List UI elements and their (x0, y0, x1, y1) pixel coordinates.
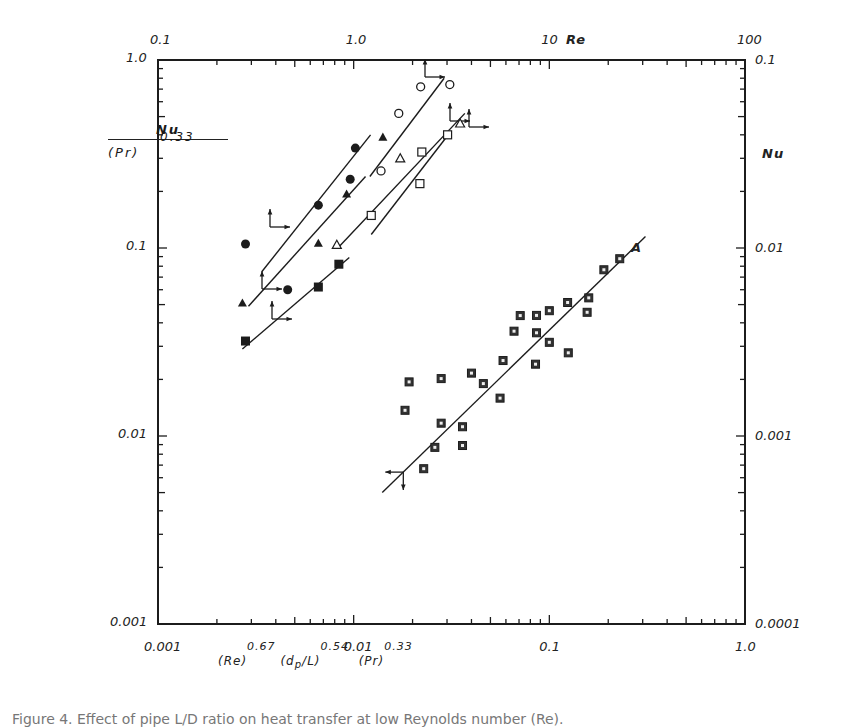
arrow-down-icon-head (401, 485, 406, 491)
marker-open-square (367, 211, 375, 219)
right-tick-label: 0.001 (755, 428, 792, 443)
marker-checked-square-inner (502, 359, 505, 362)
right-tick-label: 0.1 (755, 52, 776, 67)
marker-checked-square-inner (535, 314, 538, 317)
x-axis-title: (Re)0.67 (dp/L)0.54 (Pr)0.33 (218, 650, 413, 670)
y-tick-label: 1.0 (126, 50, 147, 65)
arrow-left-icon-head (385, 470, 391, 475)
arrow-right-icon-head (276, 287, 282, 292)
figure-caption: Figure 4. Effect of pipe L/D ratio on he… (12, 711, 564, 727)
marker-open-circle (395, 109, 403, 117)
marker-checked-square-inner (548, 341, 551, 344)
marker-filled-triangle (238, 298, 247, 306)
top-tick-label: 100 (737, 32, 762, 47)
open-circle-fit (370, 78, 444, 176)
marker-filled-circle (241, 240, 250, 249)
top-axis-title: Re (566, 32, 586, 47)
marker-open-square (418, 148, 426, 156)
marker-checked-square-inner (534, 363, 537, 366)
marker-filled-square (314, 283, 323, 292)
arrow-up-icon-head (270, 301, 275, 307)
y-axis-title: Nu (Pr)0.33 (108, 122, 228, 161)
marker-checked-square-inner (408, 380, 411, 383)
line-a-label: A (631, 240, 641, 255)
marker-filled-triangle (378, 133, 387, 141)
y-title-denominator: (Pr)0.33 (108, 145, 139, 160)
marker-open-triangle (332, 240, 341, 248)
arrow-up-icon-head (467, 109, 472, 115)
right-tick-label: 0.01 (755, 240, 784, 255)
arrow-up-icon-head (268, 209, 273, 215)
marker-checked-square-inner (535, 331, 538, 334)
line-A (382, 237, 645, 493)
marker-open-triangle (396, 154, 405, 162)
marker-checked-square-inner (567, 351, 570, 354)
arrow-up-icon-head (260, 271, 265, 277)
arrow-right-icon-head (483, 125, 489, 130)
marker-checked-square-inner (566, 301, 569, 304)
filled-square-fit (242, 258, 349, 350)
right-tick-label: 0.0001 (755, 616, 801, 631)
marker-checked-square-inner (470, 372, 473, 375)
marker-open-square (444, 131, 452, 139)
arrow-right-icon-head (286, 317, 292, 322)
marker-open-triangle (456, 119, 465, 127)
marker-checked-square-inner (404, 409, 407, 412)
marker-checked-square-inner (422, 467, 425, 470)
y-tick-label: 0.01 (118, 426, 147, 441)
marker-checked-square-inner (618, 257, 621, 260)
x-tick-label: 0.001 (144, 639, 181, 654)
marker-filled-circle (351, 144, 360, 153)
marker-open-circle (446, 81, 454, 89)
open-square-fit (371, 133, 450, 235)
marker-checked-square-inner (587, 296, 590, 299)
marker-filled-triangle (314, 239, 323, 247)
marker-checked-square-inner (433, 446, 436, 449)
marker-filled-circle (346, 175, 355, 184)
y-tick-label: 0.1 (126, 238, 147, 253)
marker-checked-square-inner (548, 309, 551, 312)
top-tick-label: 1.0 (346, 32, 367, 47)
marker-checked-square-inner (586, 311, 589, 314)
marker-open-circle (417, 83, 425, 91)
arrow-up-icon-head (448, 103, 453, 109)
marker-open-square (416, 180, 424, 188)
arrow-right-icon-head (284, 225, 290, 230)
marker-checked-square-inner (440, 422, 443, 425)
marker-checked-square-inner (482, 382, 485, 385)
marker-open-circle (377, 167, 385, 175)
marker-checked-square-inner (461, 444, 464, 447)
x-tick-label: 1.0 (735, 639, 756, 654)
marker-filled-square (241, 337, 250, 346)
marker-checked-square-inner (499, 397, 502, 400)
marker-filled-circle (283, 285, 292, 294)
top-tick-label: 0.1 (150, 32, 171, 47)
marker-checked-square-inner (461, 425, 464, 428)
x-tick-label: 0.1 (539, 639, 560, 654)
marker-filled-circle (314, 201, 323, 210)
marker-filled-square (334, 260, 343, 269)
top-tick-label: 10 (541, 32, 558, 47)
right-axis-title: Nu (762, 146, 784, 161)
marker-checked-square-inner (519, 314, 522, 317)
marker-checked-square-inner (602, 268, 605, 271)
marker-checked-square-inner (513, 330, 516, 333)
y-tick-label: 0.001 (110, 614, 147, 629)
marker-checked-square-inner (440, 377, 443, 380)
